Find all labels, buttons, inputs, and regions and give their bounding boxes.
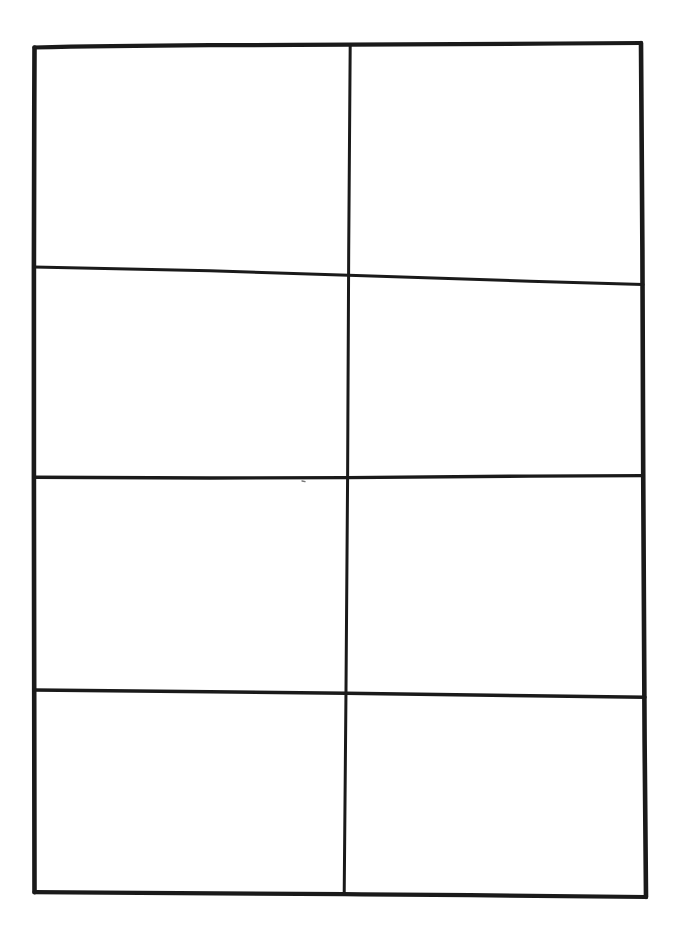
cell-text	[350, 288, 351, 289]
table-cell-r3c1[interactable]	[36, 480, 344, 689]
table-cell-r3c2[interactable]	[348, 479, 642, 696]
page-canvas: Blank hand-drawn table	[0, 0, 681, 933]
cell-text	[347, 700, 348, 701]
table-cell-r4c2[interactable]	[347, 700, 644, 896]
cell-text	[36, 270, 37, 271]
cell-text	[36, 480, 37, 481]
table-cell-r1c1[interactable]	[36, 50, 348, 268]
cell-text	[36, 50, 37, 51]
table-cell-r4c1[interactable]	[36, 693, 343, 891]
table-cell-r1c2[interactable]	[352, 48, 640, 283]
cell-text	[348, 479, 349, 480]
table-border-left	[34, 48, 35, 893]
table-cell-r2c1[interactable]	[36, 270, 346, 476]
cell-text	[36, 693, 37, 694]
cell-text	[352, 48, 353, 49]
table-cell-r2c2[interactable]	[350, 288, 641, 476]
